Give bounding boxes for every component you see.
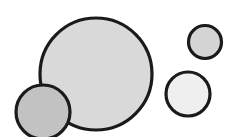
bottom-left-circle: Small dark circle bottom left [16, 85, 70, 137]
top-right-circle: Small circle top right [189, 26, 222, 59]
figure-canvas: Large center circleSmall dark circle bot… [0, 0, 237, 137]
circles-diagram: Large center circleSmall dark circle bot… [0, 0, 237, 137]
mid-right-circle: Medium pale circle right [166, 72, 210, 116]
